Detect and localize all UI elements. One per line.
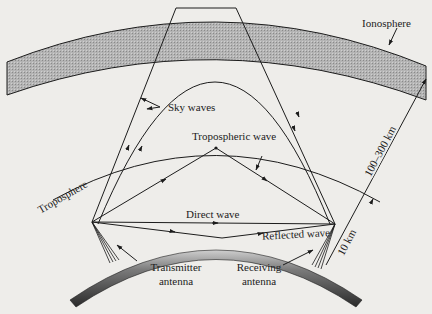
troposphere-boundary [53,155,380,202]
label-transmitter-line2: antenna [144,276,208,287]
earth-surface [70,250,362,307]
label-tropospheric-wave: Tropospheric wave [192,131,276,142]
diagram-graphic [0,0,432,314]
pointer-transmitter [117,245,137,261]
label-ionosphere: Ionosphere [362,18,411,29]
pointer-sky-waves-2 [147,107,160,109]
label-direct-wave: Direct wave [186,209,239,220]
ionosphere-band [7,22,426,100]
label-transmitter-line1: Transmitter [144,262,208,273]
transmitter-antenna [92,222,119,263]
label-receiver-line1: Receiving [230,262,288,273]
label-sky-waves: Sky waves [168,102,215,113]
label-receiver-line2: antenna [230,276,288,287]
label-transmitter-antenna: Transmitter antenna [144,262,208,287]
propagation-diagram: Ionosphere Sky waves Tropospheric wave T… [0,0,432,314]
label-receiving-antenna: Receiving antenna [230,262,288,287]
pointer-ionosphere [389,28,397,45]
dimension-troposphere [371,199,373,203]
pointer-sky-waves-1 [141,98,160,107]
